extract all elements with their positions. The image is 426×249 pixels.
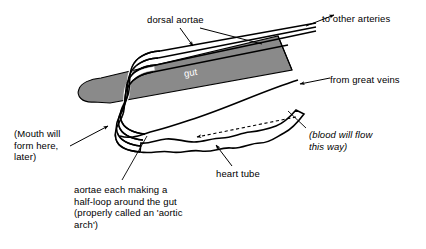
heart-tube-shape	[140, 110, 304, 153]
mouth-line-2: form here,	[14, 140, 58, 151]
label-mouth-note: (Mouth willform here,later)	[14, 128, 61, 163]
label-dorsal-aortae: dorsal aortae	[147, 14, 204, 26]
heart-tube-outline	[140, 110, 304, 153]
aortic-arch-line-4: arch')	[74, 219, 98, 230]
aortic-arch-highlights	[116, 55, 159, 150]
embryo-circulatory-diagram	[0, 0, 426, 249]
mouth-line-3: later)	[14, 151, 36, 162]
label-gut: gut	[183, 66, 198, 79]
aortic-arch-line-3: (properly called an 'aortic	[74, 207, 183, 218]
arrow-from-great-veins	[300, 78, 330, 84]
aortic-arch-line-1: aortae each making a	[74, 184, 167, 195]
mouth-line-1: (Mouth will	[14, 128, 61, 139]
label-aortic-arch-caption: aortae each making ahalf-loop around the…	[74, 184, 183, 230]
label-heart-tube: heart tube	[216, 168, 260, 180]
diagram-canvas: dorsal aortae to other arteries from gre…	[0, 0, 426, 249]
arrow-dorsal-aortae	[180, 28, 193, 46]
label-blood-flow-note: (blood will flowthis way)	[309, 129, 372, 152]
aortic-arch-line-2: half-loop around the gut	[74, 196, 177, 207]
arrow-mouth-location	[70, 126, 108, 146]
blood-flow-line-1: (blood will flow	[309, 129, 372, 140]
blood-flow-line-2: this way)	[309, 141, 347, 152]
label-to-other-arteries: to other arteries	[322, 13, 390, 25]
label-from-great-veins: from great veins	[330, 74, 400, 86]
